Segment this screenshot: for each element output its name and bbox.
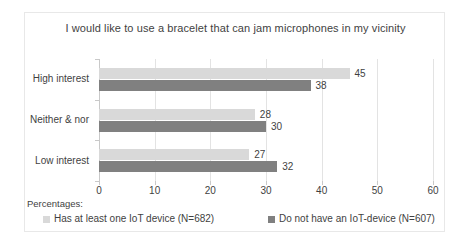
value-tick-label: 60 bbox=[427, 185, 438, 196]
bar-group: 2732 bbox=[99, 149, 433, 177]
bar[interactable] bbox=[99, 80, 311, 91]
bar-value-label: 32 bbox=[282, 161, 293, 172]
value-tick-label: 50 bbox=[372, 185, 383, 196]
legend-label: Has at least one IoT device (N=682) bbox=[54, 213, 214, 225]
bar-group: 2830 bbox=[99, 109, 433, 137]
category-label: Low interest bbox=[35, 155, 89, 167]
percentages-label: Percentages: bbox=[27, 198, 83, 209]
bar[interactable] bbox=[99, 68, 350, 79]
bar-group: 4538 bbox=[99, 68, 433, 96]
value-tick-label: 10 bbox=[149, 185, 160, 196]
category-label: Neither & nor bbox=[30, 114, 89, 126]
legend-label: Do not have an IoT-device (N=607) bbox=[279, 213, 435, 225]
bar[interactable] bbox=[99, 161, 277, 172]
value-tick-label: 0 bbox=[96, 185, 102, 196]
category-axis: High interestNeither & norLow interest bbox=[25, 59, 95, 181]
bar[interactable] bbox=[99, 109, 255, 120]
legend-item[interactable]: Has at least one IoT device (N=682) bbox=[43, 213, 214, 225]
bar[interactable] bbox=[99, 121, 266, 132]
plot-area: 453828302732 bbox=[99, 59, 433, 181]
chart-title: I would like to use a bracelet that can … bbox=[35, 21, 436, 36]
value-tick-label: 30 bbox=[260, 185, 271, 196]
bar[interactable] bbox=[99, 149, 249, 160]
bar-value-label: 38 bbox=[316, 80, 327, 91]
chart-legend: Has at least one IoT device (N=682)Do no… bbox=[43, 213, 443, 227]
value-tick-label: 40 bbox=[316, 185, 327, 196]
bar-value-label: 27 bbox=[254, 149, 265, 160]
value-tick-label: 20 bbox=[205, 185, 216, 196]
bar-value-label: 30 bbox=[271, 121, 282, 132]
chart-container: I would like to use a bracelet that can … bbox=[24, 12, 445, 232]
legend-swatch-icon bbox=[268, 216, 275, 223]
category-label: High interest bbox=[33, 73, 89, 85]
bar-value-label: 28 bbox=[260, 109, 271, 120]
bar-value-label: 45 bbox=[355, 68, 366, 79]
gridline bbox=[433, 59, 434, 181]
legend-item[interactable]: Do not have an IoT-device (N=607) bbox=[268, 213, 435, 225]
legend-swatch-icon bbox=[43, 216, 50, 223]
value-axis: 0102030405060 bbox=[99, 181, 433, 199]
